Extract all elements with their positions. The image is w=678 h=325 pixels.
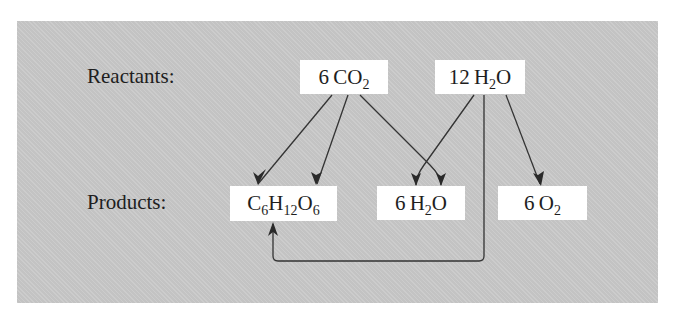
- reaction-arrows: [0, 0, 678, 325]
- arrow-h2o-to-o2: [506, 95, 540, 184]
- arrow-co2-to-h2o: [360, 95, 441, 185]
- arrowhead-icon: [436, 173, 446, 186]
- arrowhead-icon: [533, 171, 544, 186]
- arrow-h2o-to-h2o: [416, 95, 474, 185]
- arrow-co2-to-glucose-a: [258, 95, 332, 184]
- arrowhead-icon: [411, 173, 421, 186]
- arrowhead-icon: [311, 172, 322, 185]
- arrowheads: [253, 169, 544, 236]
- arrow-h2o-to-glucose-loop: [273, 95, 484, 261]
